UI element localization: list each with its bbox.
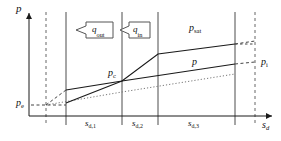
zone-label-sd1: sd,1 [85, 119, 96, 128]
diagram-canvas: p sd pe pc psat p pi qout qin sd,1 sd,2 … [0, 0, 281, 141]
label-p-c: pc [108, 68, 116, 78]
zone-label-sd3: sd,3 [188, 119, 199, 128]
label-p-sat: psat [189, 23, 201, 33]
label-p: p [192, 57, 197, 67]
x-axis-label: sd [262, 120, 269, 130]
pe-rising-dashed [46, 90, 66, 105]
label-p-e: pe [16, 98, 24, 108]
saturation-pressure-curve [66, 44, 235, 90]
p-dashed-continuation [235, 62, 255, 64]
zone-label-sd2: sd,2 [132, 119, 143, 128]
label-p-i: pi [261, 57, 268, 67]
q-out-arrow-label: qout [92, 25, 105, 36]
q-in-arrow-label: qin [133, 25, 142, 36]
y-axis-label: p [16, 3, 22, 14]
pressure-curve [66, 64, 235, 103]
